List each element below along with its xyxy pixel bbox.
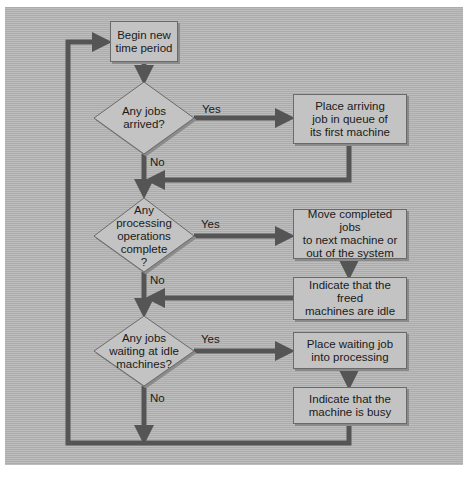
decision3-label: Any jobs waiting at idle machines? bbox=[109, 332, 179, 371]
action1-text: Place arriving job in queue of its first… bbox=[310, 100, 390, 139]
decision3-no-label: No bbox=[150, 392, 165, 404]
decision1-text: Any jobs arrived? bbox=[100, 100, 188, 136]
decision3-text: Any jobs waiting at idle machines? bbox=[100, 330, 188, 372]
decision2-no-label: No bbox=[150, 274, 165, 286]
start-box: Begin new time period bbox=[110, 21, 178, 62]
action3b-text: Indicate that the machine is busy bbox=[309, 393, 391, 419]
decision3-yes-label: Yes bbox=[201, 333, 220, 345]
action3a-box: Place waiting job into processing bbox=[293, 332, 407, 369]
action2b-box: Indicate that the freed machines are idl… bbox=[293, 277, 407, 320]
decision1-label: Any jobs arrived? bbox=[122, 105, 166, 131]
action3a-text: Place waiting job into processing bbox=[307, 338, 393, 364]
action1-box: Place arriving job in queue of its first… bbox=[293, 94, 407, 144]
decision2-text: Any processing operations complete ? bbox=[100, 203, 188, 269]
action2a-box: Move completed jobs to next machine or o… bbox=[293, 209, 407, 259]
arrow-action1-return bbox=[154, 143, 349, 180]
decision2-yes-label: Yes bbox=[201, 218, 220, 230]
action2a-text: Move completed jobs to next machine or o… bbox=[298, 208, 402, 260]
start-box-text: Begin new time period bbox=[116, 29, 173, 55]
decision2-label: Any processing operations complete ? bbox=[116, 204, 172, 269]
decision1-no-label: No bbox=[150, 156, 165, 168]
action3b-box: Indicate that the machine is busy bbox=[293, 387, 407, 424]
action2b-text: Indicate that the freed machines are idl… bbox=[298, 279, 402, 318]
decision1-yes-label: Yes bbox=[202, 103, 221, 115]
